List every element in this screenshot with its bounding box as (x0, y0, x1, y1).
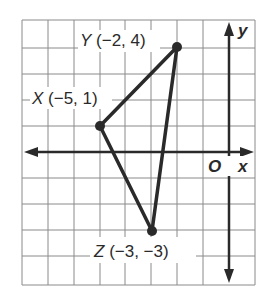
y-axis-down-arrow-icon (224, 269, 234, 283)
origin-label: O (208, 157, 221, 176)
x-axis-label: x (237, 157, 249, 176)
triangle-xyz (100, 47, 177, 231)
x-axis-left-arrow-icon (24, 147, 38, 157)
y-axis-label: y (237, 21, 249, 40)
label-x: X (−5, 1) (31, 89, 98, 108)
label-y: Y (−2, 4) (80, 31, 146, 50)
coordinate-plane: Y (−2, 4) X (−5, 1) Z (−3, −3) O x y (0, 0, 269, 299)
point-z (147, 226, 157, 236)
y-axis-up-arrow-icon (224, 22, 234, 36)
point-x (95, 121, 105, 131)
point-y (172, 42, 182, 52)
x-axis (24, 147, 254, 157)
label-z: Z (−3, −3) (93, 242, 169, 261)
x-axis-right-arrow-icon (240, 147, 254, 157)
